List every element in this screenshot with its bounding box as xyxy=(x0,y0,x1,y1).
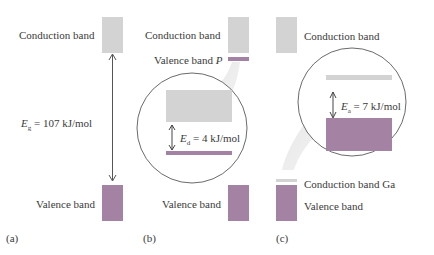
gap-arrow-a xyxy=(109,54,116,181)
conduction-label-b: Conduction band xyxy=(145,29,220,41)
acceptor-level-c xyxy=(276,179,297,182)
conduction-label-c: Conduction band xyxy=(304,30,379,42)
valence-label-b: Valence band xyxy=(162,198,221,210)
band-gap-label-a: Eg = 107 kJ/mol xyxy=(21,117,92,134)
acceptor-label-c: Conduction band Ga xyxy=(304,178,395,190)
conduction-band-b xyxy=(228,17,249,53)
valence-band-b xyxy=(228,185,249,221)
panel-tag-c: (c) xyxy=(276,232,288,244)
zoomed-acceptor-c xyxy=(326,75,392,80)
zoomed-conduction-b xyxy=(166,90,232,122)
valence-band-c xyxy=(276,185,297,221)
conduction-band-c xyxy=(276,17,297,53)
donor-gap-label-b: Ed = 4 kJ/mol xyxy=(180,132,240,149)
donor-level-b xyxy=(228,57,249,61)
zoomed-valence-c xyxy=(326,118,392,151)
valence-label-a: Valence band xyxy=(36,198,95,210)
panel-tag-b: (b) xyxy=(143,232,156,244)
donor-label-b: Valence band P xyxy=(154,54,222,66)
conduction-label-a: Conduction band xyxy=(19,29,94,41)
panel-tag-a: (a) xyxy=(6,232,18,244)
zoomed-donor-b xyxy=(166,151,232,155)
acceptor-gap-label-c: Ea = 7 kJ/mol xyxy=(341,100,401,117)
conduction-band-a xyxy=(102,17,123,53)
valence-band-a xyxy=(102,185,123,221)
valence-label-c: Valence band xyxy=(304,200,363,212)
